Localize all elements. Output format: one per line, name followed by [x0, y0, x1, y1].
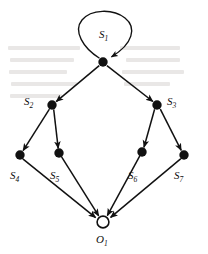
edge-s5-o1 [62, 157, 99, 216]
node-label-s7: S7 [174, 170, 183, 184]
diagram-canvas: S1 S2 S3 S4 S5 S6 S7 O1 [0, 0, 208, 254]
node-s4[interactable] [15, 150, 24, 159]
node-s5[interactable] [54, 148, 63, 157]
node-s3[interactable] [152, 100, 161, 109]
node-label-s1: S1 [99, 29, 108, 43]
node-o1[interactable] [97, 216, 109, 228]
edge-s7-o1 [111, 159, 181, 218]
node-s7[interactable] [179, 150, 188, 159]
node-s6[interactable] [137, 147, 146, 156]
edge-s4-o1 [23, 159, 96, 218]
edge-s3-s7 [160, 109, 181, 150]
node-layer [15, 57, 188, 228]
node-s1[interactable] [98, 57, 107, 66]
node-label-s3: S3 [167, 96, 176, 110]
node-label-s2: S2 [24, 96, 33, 110]
edge-s1-s3 [107, 66, 153, 102]
node-label-s6: S6 [128, 170, 137, 184]
edge-s3-s6 [144, 109, 155, 147]
node-s2[interactable] [47, 100, 56, 109]
node-label-s4: S4 [10, 170, 19, 184]
node-label-s5: S5 [50, 170, 59, 184]
edge-s2-s5 [54, 109, 59, 148]
edge-s2-s4 [23, 109, 49, 150]
node-label-o1: O1 [96, 234, 108, 248]
edge-s1-s2 [56, 66, 99, 102]
